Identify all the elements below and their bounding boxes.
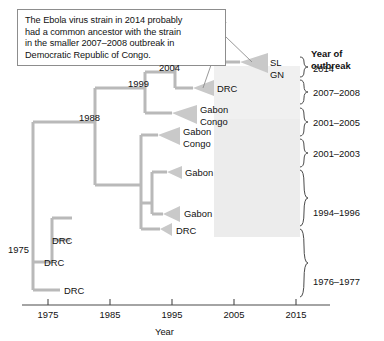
- tip-label-sl: SL: [270, 58, 281, 67]
- outbreak-year-2001-2005: 2001–2005: [313, 118, 360, 127]
- callout-annotation-box: The Ebola virus strain in 2014 probably …: [17, 9, 226, 66]
- clade-triangle-2007: [193, 80, 214, 96]
- outbreak-year-1994-1996: 1994–1996: [313, 208, 360, 217]
- shading-band-lower: [214, 119, 300, 237]
- tip-label-drc-b: DRC: [44, 258, 64, 267]
- tip-label-gabon-b: Gabon: [183, 127, 211, 136]
- brace-2001-2005: [300, 108, 308, 136]
- tip-label-drc-2007: DRC: [217, 84, 237, 93]
- clade-triangle-2001-2003: [158, 127, 180, 145]
- axis-title-year: Year: [155, 327, 174, 336]
- axis-tick-1975: 1975: [28, 310, 68, 319]
- axis-tick-2005: 2005: [214, 310, 254, 319]
- axis-tick-2015: 2015: [276, 310, 316, 319]
- callout-line-2: had a common ancestor with the strain: [25, 27, 219, 39]
- tip-label-gabon-a: Gabon: [200, 105, 228, 114]
- node-label-1988: 1988: [79, 113, 100, 122]
- tip-label-congo-a: Congo: [200, 117, 228, 126]
- tip-label-congo-b: Congo: [183, 139, 211, 148]
- node-label-1999: 1999: [128, 79, 149, 88]
- axis-tick-1985: 1985: [90, 310, 130, 319]
- tip-label-drc-1995: DRC: [176, 226, 196, 235]
- clade-triangle-gabon-a: [167, 166, 182, 179]
- tip-label-gabon-d: Gabon: [184, 209, 212, 218]
- brace-1994-1996: [300, 170, 308, 226]
- outbreak-year-2014: 2014: [313, 64, 334, 73]
- phylogenetic-tree-figure: The Ebola virus strain in 2014 probably …: [0, 0, 384, 341]
- outbreak-year-1976-1977: 1976–1977: [313, 277, 360, 286]
- outbreak-year-2007-2008: 2007–2008: [313, 88, 360, 97]
- clade-triangle-gabon-b: [163, 206, 180, 222]
- leader-line-2014: [226, 37, 252, 62]
- callout-line-3: in the smaller 2007–2008 outbreak in: [25, 38, 219, 50]
- clade-triangle-2001-2005: [172, 105, 197, 124]
- x-axis: [22, 299, 330, 305]
- callout-line-4: Democratic Republic of Congo.: [25, 50, 219, 62]
- tip-label-gn: GN: [270, 70, 284, 79]
- clade-triangle-drc-1995: [160, 223, 172, 236]
- tip-label-gabon-c: Gabon: [185, 168, 213, 177]
- node-label-2004: 2004: [159, 63, 180, 72]
- brace-2007: [300, 80, 308, 104]
- brace-2001-2003: [300, 139, 308, 167]
- node-label-1975: 1975: [8, 245, 29, 254]
- tip-label-drc-a: DRC: [52, 236, 72, 245]
- axis-tick-1995: 1995: [152, 310, 192, 319]
- outbreak-year-2001-2003: 2001–2003: [313, 149, 360, 158]
- tip-label-drc-c: DRC: [64, 286, 84, 295]
- legend-header-line-1: Year of: [311, 48, 351, 60]
- brace-2014: [300, 57, 308, 77]
- callout-line-1: The Ebola virus strain in 2014 probably: [25, 15, 219, 27]
- brace-1976-1977: [300, 229, 308, 297]
- outbreak-braces: [300, 57, 308, 297]
